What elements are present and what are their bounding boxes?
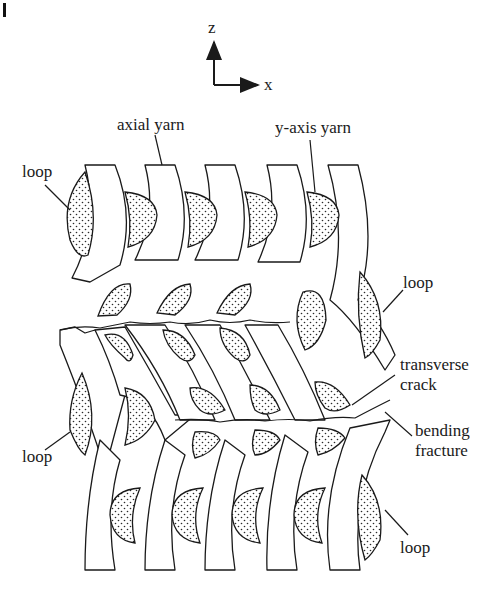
loop-yarn [67, 172, 93, 256]
loop-top-left-label: loop [22, 162, 52, 181]
transverse-crack-label-line2: crack [400, 375, 437, 394]
axial-yarn-leader [155, 135, 162, 165]
z-axis-label: z [208, 18, 216, 37]
y-axis-yarn [315, 382, 350, 411]
y-axis-yarn-label: y-axis yarn [275, 118, 352, 137]
loop-top-left-leader [45, 185, 70, 210]
bending-fracture-label-line2: fracture [415, 441, 468, 460]
y-axis-yarn [250, 385, 280, 414]
y-axis-yarn [232, 488, 263, 543]
y-axis-yarn [157, 284, 191, 315]
loop-bottom-right-label: loop [400, 538, 430, 557]
loop-bottom-right-leader [385, 510, 408, 535]
loop-yarn [358, 475, 381, 560]
x-axis-label: x [264, 75, 273, 94]
bending-fracture-label-line1: bending [415, 421, 470, 440]
y-axis-yarn [193, 432, 221, 458]
y-axis-yarn [297, 291, 326, 350]
loop-top-right-label: loop [403, 273, 433, 292]
y-axis-yarn [253, 430, 281, 455]
braided-composite-fracture-diagram: z x [0, 0, 498, 598]
axis-indicator: z x [208, 18, 273, 94]
y-axis-yarn [294, 488, 325, 543]
loop-bottom-left-label: loop [22, 447, 52, 466]
y-axis-yarn [316, 428, 346, 455]
y-axis-yarn [307, 192, 339, 247]
y-axis-yarn [217, 284, 251, 315]
loop-yarn [358, 272, 381, 358]
bending-fracture-leader [385, 412, 412, 436]
loop-top-right-leader [383, 290, 403, 312]
y-axis-yarn-leader [310, 140, 315, 192]
y-axis-yarn [172, 488, 203, 543]
axial-yarn-label: axial yarn [117, 115, 185, 134]
transverse-crack-label-line1: transverse [400, 355, 469, 374]
y-axis-yarn [110, 488, 140, 543]
y-axis-yarn [98, 284, 131, 316]
